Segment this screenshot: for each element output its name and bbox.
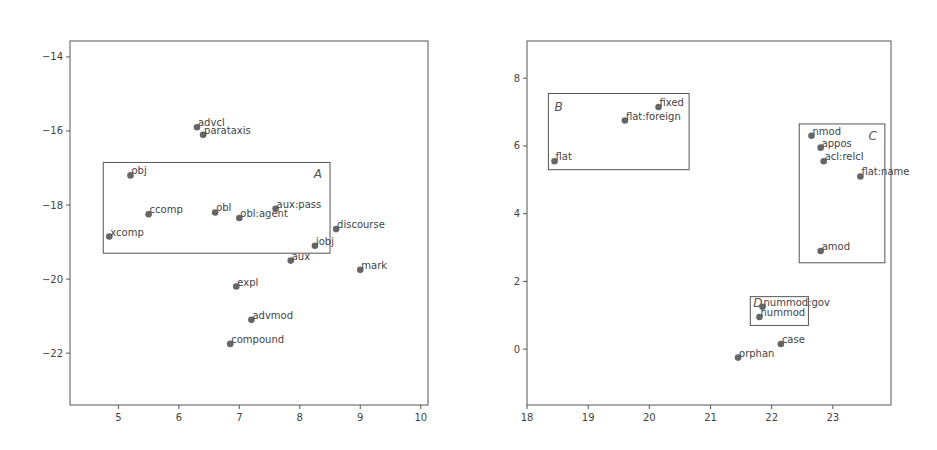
data-point-label: flat:foreign	[626, 111, 681, 122]
data-point-label: discourse	[337, 219, 385, 230]
data-point-label: aux:pass	[277, 199, 322, 210]
cluster-label-c: C	[868, 129, 877, 143]
cluster-label-b: B	[554, 100, 562, 114]
cluster-scatter-figure: 5678910−14−16−18−20−22Aadvclparataxisobj…	[0, 0, 937, 450]
y-tick-label: 4	[514, 208, 520, 219]
y-tick-label: −14	[42, 51, 63, 62]
x-tick-label: 23	[827, 412, 840, 423]
x-tick-label: 21	[704, 412, 717, 423]
data-point-label: orphan	[739, 348, 774, 359]
data-point-label: aux	[292, 251, 310, 262]
data-point-label: xcomp	[110, 227, 143, 238]
data-point-label: case	[782, 334, 805, 345]
y-tick-label: 2	[514, 276, 520, 287]
data-point-label: flat	[556, 151, 572, 162]
x-tick-label: 5	[115, 412, 121, 423]
data-point-label: parataxis	[204, 125, 251, 136]
data-point-label: obj	[131, 165, 146, 176]
x-tick-label: 7	[236, 412, 242, 423]
data-point-label: flat:name	[861, 166, 909, 177]
data-point-label: ccomp	[150, 204, 183, 215]
data-point-label: fixed	[660, 97, 684, 108]
plot-frame	[527, 41, 891, 405]
y-tick-label: −22	[42, 348, 63, 359]
data-point-label: acl:relcl	[825, 151, 864, 162]
y-tick-label: 0	[514, 344, 520, 355]
data-point-label: compound	[231, 334, 284, 345]
data-point-label: obl	[216, 202, 231, 213]
left-panel: 5678910−14−16−18−20−22Aadvclparataxisobj…	[42, 41, 428, 423]
x-tick-label: 20	[643, 412, 656, 423]
x-tick-label: 18	[521, 412, 534, 423]
x-tick-label: 6	[176, 412, 182, 423]
x-tick-label: 8	[297, 412, 303, 423]
data-point-label: iobj	[316, 236, 334, 247]
data-point-label: nmod	[812, 126, 841, 137]
x-tick-label: 19	[582, 412, 595, 423]
cluster-label-a: A	[313, 167, 322, 181]
data-point-label: amod	[822, 241, 850, 252]
right-panel: 18192021222302468BCDfixedflat:foreignfla…	[514, 41, 910, 423]
y-tick-label: −18	[42, 200, 63, 211]
x-tick-label: 10	[414, 412, 427, 423]
data-point-label: advmod	[252, 310, 293, 321]
x-tick-label: 22	[765, 412, 778, 423]
data-point-label: mark	[361, 260, 387, 271]
data-point-label: appos	[822, 138, 852, 149]
data-point-label: expl	[237, 277, 258, 288]
y-tick-label: 8	[514, 73, 520, 84]
y-tick-label: 6	[514, 140, 520, 151]
data-point-label: nummod	[760, 307, 805, 318]
y-tick-label: −16	[42, 125, 63, 136]
y-tick-label: −20	[42, 274, 63, 285]
x-tick-label: 9	[357, 412, 363, 423]
